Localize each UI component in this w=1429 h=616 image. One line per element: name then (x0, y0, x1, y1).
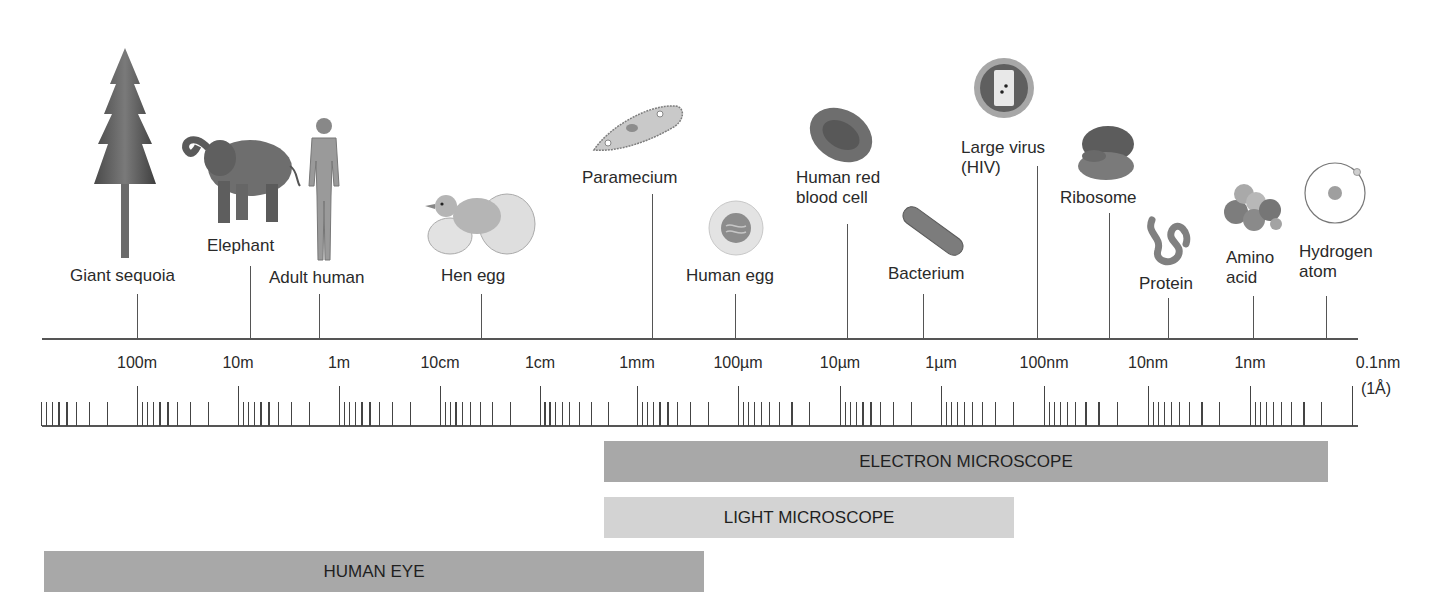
ruler-tick (840, 386, 841, 426)
giant-sequoia-icon (80, 44, 170, 259)
hydrogen-atom-icon (1302, 160, 1368, 226)
scale-label-1m: 1m (328, 354, 350, 372)
pointer-red-blood-cell (847, 224, 848, 339)
ruler-tick (52, 402, 53, 426)
ruler-tick (911, 402, 912, 426)
ruler-tick (510, 402, 511, 426)
ruler-tick (58, 402, 59, 426)
ruler-tick (208, 402, 209, 426)
scale-label-10m: 10m (222, 354, 253, 372)
ruler-tick (142, 402, 143, 426)
pointer-bacterium (923, 294, 924, 339)
ruler-tick (379, 402, 380, 426)
ruler-tick (870, 402, 871, 426)
log-scale-ruler-line (42, 425, 1358, 427)
ruler-tick (349, 402, 350, 426)
ruler-tick (369, 402, 370, 426)
ruler-tick (260, 402, 261, 426)
ruler-tick (1273, 402, 1274, 426)
pointer-giant-sequoia (137, 294, 138, 339)
ruler-tick (1255, 402, 1256, 426)
ruler-tick (167, 402, 168, 426)
label-red-blood-cell-line2: blood cell (796, 188, 880, 208)
red-blood-cell-icon (806, 104, 876, 166)
ruler-tick (440, 386, 441, 426)
label-hydrogen-atom-line1: Hydrogen (1299, 242, 1373, 262)
pointer-ribosome (1109, 213, 1110, 339)
ruler-tick (1054, 402, 1055, 426)
pointer-protein (1168, 298, 1169, 339)
ruler-tick (893, 402, 894, 426)
scale-label-0-1nm: 0.1nm (1356, 354, 1400, 372)
scale-label-1cm: 1cm (525, 354, 555, 372)
ruler-tick (941, 386, 942, 426)
ruler-tick (392, 402, 393, 426)
ruler-tick (1189, 402, 1190, 426)
ruler-tick (1291, 402, 1292, 426)
ruler-tick (540, 386, 541, 426)
ruler-tick (1049, 402, 1050, 426)
label-hydrogen-atom-line2: atom (1299, 262, 1373, 282)
scale-label-10um: 10µm (820, 354, 860, 372)
human-egg-icon (708, 200, 764, 256)
range-bar-electron-microscope: ELECTRON MICROSCOPE (604, 441, 1328, 482)
large-virus-icon (972, 56, 1036, 120)
ruler-tick (455, 402, 456, 426)
ruler-tick (344, 402, 345, 426)
ruler-tick (291, 402, 292, 426)
ruler-tick (309, 402, 310, 426)
ruler-tick (591, 402, 592, 426)
paramecium-icon (588, 98, 688, 158)
ruler-tick (754, 402, 755, 426)
ruler-tick (137, 386, 138, 426)
ruler-tick (856, 402, 857, 426)
ruler-tick (492, 402, 493, 426)
ruler-tick (809, 402, 810, 426)
ruler-tick (177, 402, 178, 426)
scale-label-1nm: 1nm (1234, 354, 1265, 372)
ruler-tick (845, 402, 846, 426)
label-elephant: Elephant (207, 236, 274, 256)
label-red-blood-cell-line1: Human red (796, 168, 880, 188)
ruler-tick (667, 402, 668, 426)
hen-egg-icon (422, 186, 537, 256)
ruler-tick (89, 402, 90, 426)
ruler-tick (964, 402, 965, 426)
ruler-tick (791, 402, 792, 426)
ruler-tick (1266, 402, 1267, 426)
ruler-tick (608, 402, 609, 426)
label-adult-human: Adult human (269, 268, 364, 288)
ruler-tick (579, 402, 580, 426)
ruler-tick (1067, 402, 1068, 426)
ruler-tick (659, 402, 660, 426)
ruler-tick (1250, 386, 1251, 426)
ruler-tick (544, 402, 545, 426)
ruler-tick (190, 402, 191, 426)
ruler-tick (957, 402, 958, 426)
ruler-tick (951, 402, 952, 426)
label-ribosome: Ribosome (1060, 188, 1137, 208)
ruler-tick (569, 402, 570, 426)
ruler-tick (850, 402, 851, 426)
ruler-tick (361, 402, 362, 426)
label-amino-acid: Amino acid (1226, 248, 1274, 288)
scale-label-10nm: 10nm (1128, 354, 1168, 372)
ruler-tick (1164, 402, 1165, 426)
ruler-tick (995, 402, 996, 426)
pointer-hydrogen-atom (1326, 296, 1327, 339)
ruler-tick (248, 402, 249, 426)
label-hen-egg: Hen egg (441, 266, 505, 286)
label-giant-sequoia: Giant sequoia (70, 266, 175, 286)
ruler-tick (761, 402, 762, 426)
ruler-tick (1044, 386, 1045, 426)
range-label-human-eye: HUMAN EYE (323, 562, 424, 582)
ruler-tick (738, 386, 739, 426)
ruler-tick (1148, 386, 1149, 426)
scale-label-100um: 100µm (713, 354, 762, 372)
ruler-tick (480, 402, 481, 426)
ruler-tick (1260, 402, 1261, 426)
label-large-virus-line2: (HIV) (961, 158, 1045, 178)
pointer-amino-acid (1253, 296, 1254, 339)
ruler-tick (562, 402, 563, 426)
ruler-tick (76, 402, 77, 426)
